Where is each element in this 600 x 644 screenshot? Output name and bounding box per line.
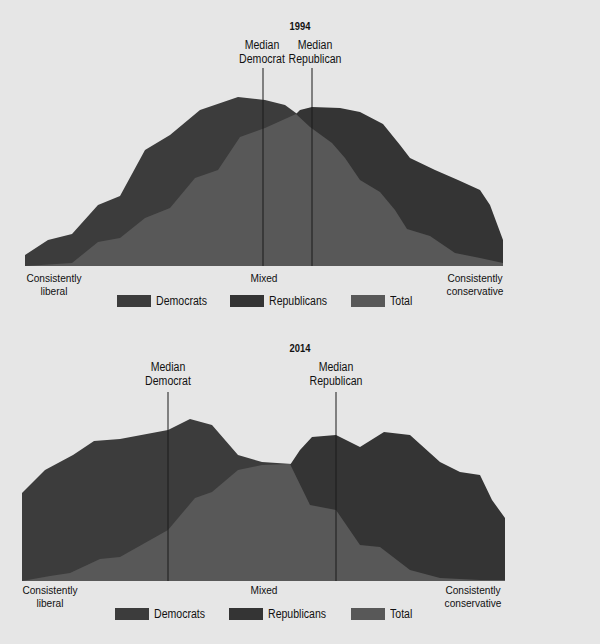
axis-label-mixed: Mixed [238, 584, 291, 597]
republicans-swatch [230, 295, 264, 307]
chart-1994: 1994 Median Democrat Median Republican C… [0, 0, 600, 330]
legend-item-total: Total [351, 294, 415, 308]
legend-item-republicans: Republicans [229, 607, 334, 621]
democrats-swatch [117, 295, 151, 307]
axis-label-mixed: Mixed [238, 272, 291, 285]
republicans-swatch [229, 608, 263, 620]
chart-2014: 2014 Median Democrat Median Republican C… [0, 330, 600, 644]
legend: Democrats Republicans Total [0, 294, 600, 310]
legend-item-democrats: Democrats [115, 607, 212, 621]
legend-item-total: Total [351, 607, 415, 621]
total-swatch [351, 608, 385, 620]
legend: Democrats Republicans Total [0, 607, 600, 623]
democrats-swatch [115, 608, 149, 620]
legend-item-republicans: Republicans [230, 294, 335, 308]
legend-item-democrats: Democrats [117, 294, 214, 308]
total-swatch [351, 295, 385, 307]
